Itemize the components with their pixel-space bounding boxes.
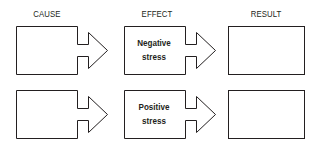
effect-label-line1: Positive xyxy=(129,100,180,114)
effect-label-negative-stress: Negative stress xyxy=(129,36,180,64)
effect-label-line1: Negative xyxy=(129,36,180,50)
cause-arrow-box-row1 xyxy=(17,27,108,75)
cause-arrow-box-row2 xyxy=(17,91,108,139)
effect-label-positive-stress: Positive stress xyxy=(129,100,180,128)
result-box-row1 xyxy=(229,27,305,75)
result-box-row2 xyxy=(229,91,305,139)
effect-label-line2: stress xyxy=(129,114,180,128)
effect-label-line2: stress xyxy=(129,50,180,64)
